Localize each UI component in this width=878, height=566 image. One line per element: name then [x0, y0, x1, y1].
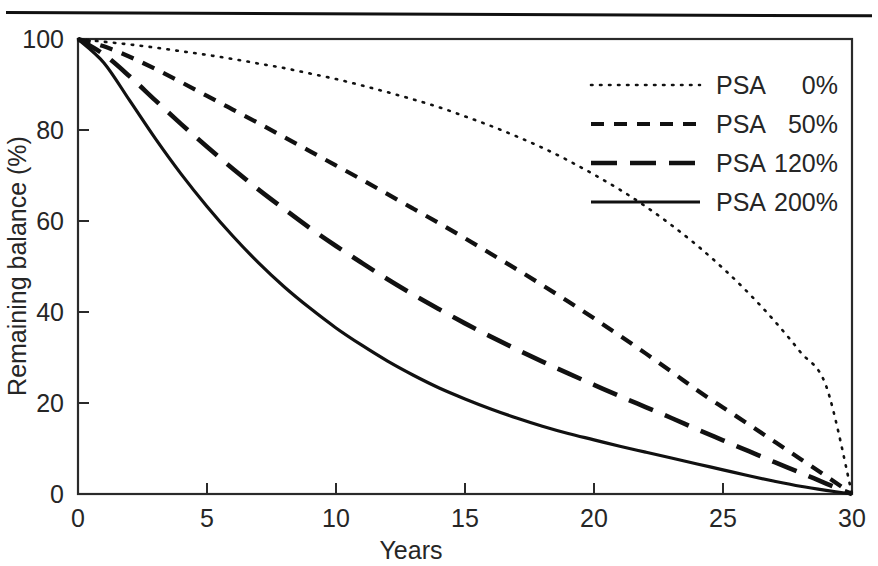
legend-label-prefix: PSA	[716, 149, 766, 177]
y-tick-label: 20	[36, 389, 64, 417]
legend-label-value: 120%	[774, 149, 838, 177]
x-tick-label: 20	[580, 504, 608, 532]
x-tick-label: 25	[709, 504, 737, 532]
y-axis-title: Remaining balance (%)	[3, 136, 31, 396]
series-line-solid	[78, 39, 852, 494]
x-axis-tick-labels: 051015202530	[71, 504, 866, 532]
x-axis-title: Years	[379, 536, 442, 564]
x-tick-label: 30	[838, 504, 866, 532]
series-line-dashed	[78, 39, 852, 494]
legend-label-prefix: PSA	[716, 188, 766, 216]
legend-label-value: 200%	[774, 188, 838, 216]
legend-label-value: 0%	[802, 71, 838, 99]
figure-container: 020406080100 051015202530 Years Remainin…	[0, 0, 878, 566]
y-tick-label: 80	[36, 116, 64, 144]
x-tick-label: 10	[322, 504, 350, 532]
y-tick-label: 60	[36, 207, 64, 235]
series-group	[78, 39, 852, 494]
x-tick-label: 0	[71, 504, 85, 532]
legend-label-solid: PSA200%	[716, 188, 838, 216]
legend-label-long-dashed: PSA120%	[716, 149, 838, 177]
series-line-dotted	[78, 39, 852, 494]
series-line-long-dashed	[78, 39, 852, 494]
legend-label-dotted: PSA0%	[716, 71, 838, 99]
legend-label-prefix: PSA	[716, 71, 766, 99]
legend-label-dashed: PSA50%	[716, 110, 838, 138]
x-axis-ticks	[78, 483, 852, 494]
y-tick-label: 0	[50, 480, 64, 508]
plot-frame	[78, 39, 852, 494]
legend-label-value: 50%	[788, 110, 838, 138]
x-tick-label: 5	[200, 504, 214, 532]
y-tick-label: 40	[36, 298, 64, 326]
y-axis-ticks	[78, 39, 89, 494]
y-tick-label: 100	[22, 25, 64, 53]
x-tick-label: 15	[451, 504, 479, 532]
chart-canvas: 020406080100 051015202530 Years Remainin…	[0, 0, 878, 566]
legend-label-prefix: PSA	[716, 110, 766, 138]
